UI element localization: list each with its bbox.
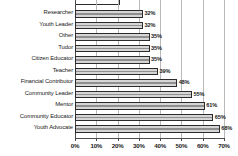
bar-center-stripe xyxy=(76,48,149,50)
bar-center-stripe xyxy=(76,82,176,84)
category-label: Youth Advocate xyxy=(1,123,73,133)
plot-area: 32%32%35%35%35%39%48%55%61%65%68% xyxy=(75,0,224,138)
bar-row: 68% xyxy=(75,124,224,136)
bar-row: 48% xyxy=(75,78,224,90)
category-label: Community Leader xyxy=(1,89,73,99)
bar-value-label: 32% xyxy=(145,21,156,31)
bar-row: 39% xyxy=(75,66,224,78)
bar[interactable] xyxy=(75,125,220,132)
bar-row: 65% xyxy=(75,112,224,124)
bar-center-stripe xyxy=(76,36,149,38)
bar-row: 55% xyxy=(75,89,224,101)
x-tick-label: 10% xyxy=(90,141,102,150)
x-tick-label: 50% xyxy=(176,141,188,150)
x-axis: 0%10%20%30%40%50%60%70% xyxy=(75,138,224,156)
x-tick-label: 40% xyxy=(154,141,166,150)
bar-value-label: 35% xyxy=(151,44,162,54)
category-label: Tudor xyxy=(1,43,73,53)
bar-row: 32% xyxy=(75,9,224,21)
bar[interactable] xyxy=(75,68,158,75)
category-label: Mentor xyxy=(1,100,73,110)
bar-value-label: 61% xyxy=(206,101,217,111)
bar-center-stripe xyxy=(76,128,219,130)
bar-value-label: 39% xyxy=(160,67,171,77)
bar-row: 35% xyxy=(75,55,224,67)
bar-value-label: 68% xyxy=(221,124,232,134)
bar-row: 35% xyxy=(75,43,224,55)
bar[interactable] xyxy=(75,114,213,121)
category-label: Citizen Educator xyxy=(1,54,73,64)
category-axis-labels: ResearcherYouth LeaderOtherTudorCitizen … xyxy=(0,0,73,138)
x-tick-label: 20% xyxy=(112,141,124,150)
bar[interactable] xyxy=(75,91,192,98)
bar[interactable] xyxy=(75,56,150,63)
bar-row: 35% xyxy=(75,32,224,44)
bar-value-label: 35% xyxy=(151,55,162,65)
bar[interactable] xyxy=(75,22,143,29)
x-tick-label: 70% xyxy=(218,141,230,150)
bar[interactable] xyxy=(75,102,205,109)
bar-chart: ResearcherYouth LeaderOtherTudorCitizen … xyxy=(0,0,238,156)
bar-center-stripe xyxy=(76,25,142,27)
x-tick-label: 60% xyxy=(197,141,209,150)
bar[interactable] xyxy=(75,45,150,52)
bar-center-stripe xyxy=(76,71,157,73)
bar-center-stripe xyxy=(76,94,191,96)
category-label: Researcher xyxy=(1,8,73,18)
bar-center-stripe xyxy=(76,59,149,61)
bar-center-stripe xyxy=(76,117,212,119)
bar[interactable] xyxy=(75,33,150,40)
x-tick-label: 0% xyxy=(71,141,79,150)
bar-row: 32% xyxy=(75,20,224,32)
category-label: Community Educator xyxy=(1,112,73,122)
bar-value-label: 55% xyxy=(194,90,205,100)
category-label: Other xyxy=(1,31,73,41)
bar[interactable] xyxy=(75,79,177,86)
bar[interactable] xyxy=(75,10,143,17)
category-label: Teacher xyxy=(1,66,73,76)
bar-row: 61% xyxy=(75,101,224,113)
bar-value-label: 65% xyxy=(215,113,226,123)
bar-center-stripe xyxy=(76,13,142,15)
bar-value-label: 32% xyxy=(145,9,156,19)
x-tick-label: 30% xyxy=(133,141,145,150)
bar-center-stripe xyxy=(76,105,204,107)
category-label: Youth Leader xyxy=(1,20,73,30)
bar-value-label: 35% xyxy=(151,32,162,42)
category-label: Financial Contributor xyxy=(1,77,73,87)
bar-value-label: 48% xyxy=(179,78,190,88)
